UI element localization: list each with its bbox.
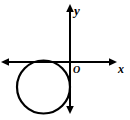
- y-axis-down-arrow-icon: [66, 106, 74, 114]
- coordinate-plane-diagram: y x O: [0, 0, 130, 120]
- x-axis-left-arrow-icon: [1, 58, 9, 66]
- x-axis-label: x: [117, 62, 124, 76]
- x-axis-right-arrow-icon: [109, 58, 117, 66]
- origin-label: O: [73, 64, 80, 75]
- y-axis-up-arrow-icon: [66, 4, 74, 12]
- figure-container: y x O: [0, 0, 130, 120]
- y-axis-label: y: [72, 3, 80, 18]
- tangent-circle: [17, 61, 70, 114]
